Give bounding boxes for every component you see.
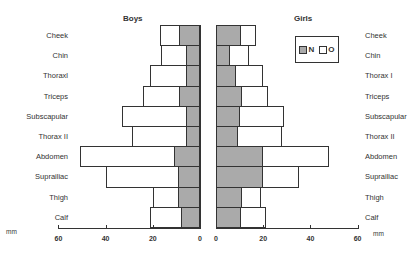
boys-bar-n [186,106,200,127]
girls-bar-n [216,207,241,228]
boys-bar-n [179,25,200,46]
girls-tick-mark [310,225,311,229]
girls-bar-n [216,25,241,46]
swatch-n-icon [299,46,307,54]
boys-y-axis [200,25,201,228]
boys-x-tick: 20 [149,235,157,242]
boys-bar-n [174,146,200,167]
legend-item-n: N [299,45,314,54]
girls-category-label: Triceps [365,92,389,101]
girls-tick-mark [216,225,217,229]
boys-tick-mark [153,225,154,229]
girls-bar-n [216,86,242,107]
girls-category-label: Subscapular [365,112,407,121]
legend-item-o: O [319,45,334,54]
boys-category-label: Abdomen [8,152,68,161]
girls-unit-label: mm [373,230,384,237]
boys-bar-n [179,86,200,107]
girls-category-label: Thorax II [365,132,395,141]
boys-category-label: Cheek [8,31,68,40]
girls-bar-n [216,187,242,208]
girls-x-tick: 20 [259,235,267,242]
boys-tick-mark [58,225,59,229]
boys-category-label: Thorax II [8,132,68,141]
boys-bar-n [181,207,200,228]
boys-bar-n [178,166,200,187]
boys-bar-n [186,45,200,66]
girls-bar-n [216,126,238,147]
girls-category-label: Chin [365,51,380,60]
boys-x-tick: 0 [198,235,202,242]
boys-bar-n [186,65,200,86]
boys-x-tick: 40 [102,235,110,242]
girls-y-axis [216,25,217,228]
swatch-o-icon [319,46,327,54]
girls-category-label: Cheek [365,31,387,40]
boys-category-label: Suprailiac [8,172,68,181]
girls-category-label: Abdomen [365,152,397,161]
boys-category-label: Triceps [8,92,68,101]
girls-x-tick: 0 [214,235,218,242]
boys-category-label: Calf [8,213,68,222]
boys-x-axis [58,228,200,229]
boys-category-label: Thoraxl [8,71,68,80]
boys-title: Boys [123,14,143,23]
boys-category-label: Chin [8,51,68,60]
boys-category-label: Thigh [8,193,68,202]
girls-x-tick: 60 [354,235,362,242]
boys-bar-n [186,126,200,147]
boys-tick-mark [106,225,107,229]
boys-category-label: Subscapular [8,112,68,121]
girls-tick-mark [263,225,264,229]
girls-category-label: Thigh [365,193,384,202]
girls-bar-n [216,45,230,66]
boys-tick-mark [200,225,201,229]
girls-title: Girls [294,14,312,23]
girls-tick-mark [358,225,359,229]
girls-category-label: Suprailiac [365,172,398,181]
boys-bar-n [178,187,200,208]
girls-x-tick: 40 [306,235,314,242]
girls-bar-n [216,106,240,127]
girls-category-label: Thorax I [365,71,393,80]
girls-category-label: Calf [365,213,378,222]
legend: N O [295,36,339,63]
girls-bar-n [216,146,263,167]
girls-bar-n [216,166,263,187]
boys-x-tick: 60 [54,235,62,242]
girls-x-axis [216,228,358,229]
girls-bar-n [216,65,236,86]
boys-unit-label: mm [6,228,17,235]
